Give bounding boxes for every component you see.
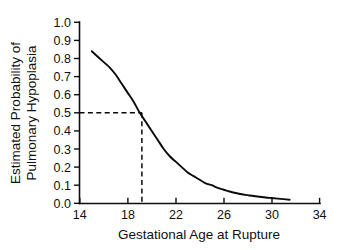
x-tick-label-30: 30 <box>265 208 279 222</box>
x-axis-tick-labels: 14 18 22 26 30 34 <box>73 208 327 222</box>
chart-plot-area: Estimated Probability of Pulmonary Hypop… <box>0 0 340 250</box>
x-tick-label-26: 26 <box>217 208 231 222</box>
y-axis-label-line1: Estimated Probability of <box>8 42 23 184</box>
y-axis-ticks <box>74 22 80 203</box>
x-tick-label-22: 22 <box>169 208 183 222</box>
x-tick-label-18: 18 <box>121 208 135 222</box>
y-tick-label-0.1: 0.1 <box>54 179 71 193</box>
y-axis-tick-labels: 1.0 0.9 0.8 0.7 0.6 0.5 0.4 0.3 0.2 0.1 … <box>54 16 71 211</box>
probability-curve <box>92 51 290 199</box>
y-tick-label-0.3: 0.3 <box>54 143 71 157</box>
y-tick-label-0.7: 0.7 <box>54 70 71 84</box>
y-tick-label-0.5: 0.5 <box>54 106 71 120</box>
y-tick-label-0.9: 0.9 <box>54 34 71 48</box>
chart-figure: Estimated Probability of Pulmonary Hypop… <box>0 0 340 250</box>
x-tick-label-34: 34 <box>313 208 327 222</box>
y-tick-label-0.8: 0.8 <box>54 52 71 66</box>
y-tick-label-0.6: 0.6 <box>54 88 71 102</box>
y-tick-label-0.4: 0.4 <box>54 124 71 138</box>
x-tick-label-14: 14 <box>73 208 87 222</box>
y-tick-label-0.2: 0.2 <box>54 161 71 175</box>
y-tick-label-0.0: 0.0 <box>54 197 71 211</box>
y-tick-label-1.0: 1.0 <box>54 16 71 30</box>
y-axis-label-line2: Pulmonary Hypoplasia <box>24 45 39 181</box>
x-axis-label: Gestational Age at Rupture <box>118 227 280 242</box>
